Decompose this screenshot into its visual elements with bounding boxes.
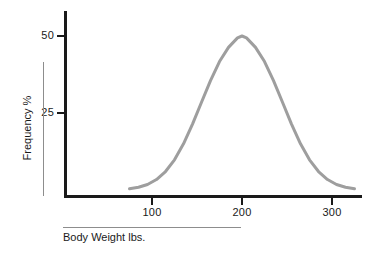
x-tick-mark-300 bbox=[331, 197, 333, 205]
x-tick-mark-200 bbox=[241, 197, 243, 205]
y-axis-line bbox=[64, 11, 67, 198]
y-axis-title: Frequency % bbox=[21, 68, 33, 188]
y-tick-mark-50 bbox=[57, 35, 65, 37]
y-tick-label-50: 50 bbox=[28, 29, 54, 41]
x-tick-mark-100 bbox=[151, 197, 153, 205]
x-tick-label-200: 200 bbox=[222, 206, 262, 218]
x-tick-label-300: 300 bbox=[312, 206, 352, 218]
y-axis-title-rule bbox=[43, 62, 44, 196]
x-axis-title-rule bbox=[63, 227, 241, 228]
frequency-distribution-chart: 50 25 100 200 300 Frequency % Body Weigh… bbox=[0, 0, 371, 254]
x-tick-label-100: 100 bbox=[132, 206, 172, 218]
x-axis-title: Body Weight lbs. bbox=[63, 231, 145, 243]
x-axis-line bbox=[64, 195, 362, 198]
bell-curve-line bbox=[130, 36, 355, 189]
y-tick-mark-25 bbox=[57, 112, 65, 114]
